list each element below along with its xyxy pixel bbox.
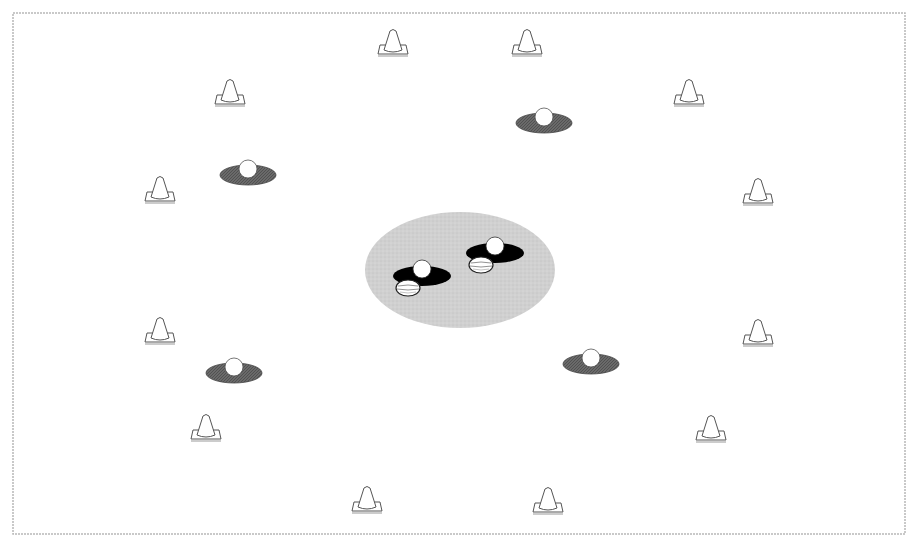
marker-disc-with-ball-icon (206, 358, 262, 383)
marker-disc-with-ball-icon (563, 349, 619, 374)
cone-icon (145, 177, 175, 204)
cone-icon (743, 320, 773, 347)
cone-icon (145, 318, 175, 345)
center-grid-zone (365, 212, 555, 328)
center-zone (365, 212, 555, 328)
cone-icon (191, 415, 221, 442)
cone-icon (743, 179, 773, 206)
drill-diagram (0, 0, 915, 539)
rugby-ball-icon (396, 280, 420, 296)
cone-icon (533, 488, 563, 515)
cone-icon (378, 30, 408, 57)
rugby-ball-icon (469, 257, 493, 273)
cone-icon (674, 80, 704, 107)
cone-icon (512, 30, 542, 57)
cone-icon (352, 487, 382, 514)
cone-icon (696, 416, 726, 443)
cone-icon (215, 80, 245, 107)
marker-disc-with-ball-icon (220, 160, 276, 185)
marker-disc-with-ball-icon (516, 108, 572, 133)
